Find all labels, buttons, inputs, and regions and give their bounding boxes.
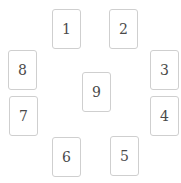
card-4[interactable]: 4 <box>150 96 179 136</box>
card-9-label: 9 <box>92 85 101 99</box>
card-6-label: 6 <box>62 150 71 164</box>
card-6[interactable]: 6 <box>52 137 81 177</box>
card-3[interactable]: 3 <box>150 50 179 90</box>
card-7-label: 7 <box>19 109 28 123</box>
card-1-label: 1 <box>62 22 71 36</box>
card-3-label: 3 <box>160 63 169 77</box>
card-4-label: 4 <box>160 109 169 123</box>
card-9[interactable]: 9 <box>82 72 111 112</box>
card-1[interactable]: 1 <box>52 9 81 49</box>
card-8[interactable]: 8 <box>8 50 37 90</box>
card-5-label: 5 <box>120 149 129 163</box>
card-8-label: 8 <box>18 63 27 77</box>
card-7[interactable]: 7 <box>9 96 38 136</box>
card-2-label: 2 <box>119 22 128 36</box>
card-5[interactable]: 5 <box>110 136 139 176</box>
card-2[interactable]: 2 <box>109 9 138 49</box>
